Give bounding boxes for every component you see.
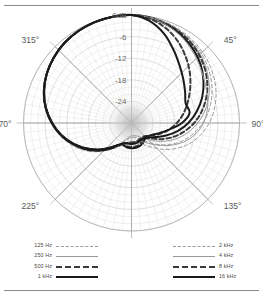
legend: 125 Hz250 Hz500 Hz1 kHz 2 kHz4 kHz8 kHz1… xyxy=(0,241,263,285)
legend-column-high-frequencies: 2 kHz4 kHz8 kHz16 kHz xyxy=(173,241,245,281)
top-divider-rule xyxy=(4,5,259,6)
polar-plot-area: 0dB-6-12-18-240°45°90°135°180°225°270°31… xyxy=(0,8,263,240)
angle-tick-label-45: 45° xyxy=(224,35,237,45)
legend-item: 1 kHz xyxy=(18,272,98,281)
legend-label: 4 kHz xyxy=(219,251,245,260)
bottom-divider-rule xyxy=(4,290,259,291)
radial-tick-label: -24 xyxy=(115,97,127,106)
radial-tick-label: -12 xyxy=(115,54,127,63)
legend-label: 16 kHz xyxy=(219,272,245,281)
legend-label: 8 kHz xyxy=(219,262,245,271)
legend-line-swatch xyxy=(173,254,215,258)
angle-tick-label-315: 315° xyxy=(22,35,40,45)
legend-label: 125 Hz xyxy=(18,241,52,250)
legend-item: 500 Hz xyxy=(18,262,98,271)
radial-tick-label: -18 xyxy=(115,76,127,85)
legend-item: 8 kHz xyxy=(173,262,245,271)
radial-tick-label: 0dB xyxy=(112,11,126,20)
legend-item: 2 kHz xyxy=(173,241,245,250)
angle-tick-label-225: 225° xyxy=(22,201,40,211)
legend-item: 250 Hz xyxy=(18,251,98,260)
legend-line-swatch xyxy=(56,244,98,248)
legend-label: 2 kHz xyxy=(219,241,245,250)
legend-line-swatch xyxy=(56,264,98,268)
legend-line-swatch xyxy=(173,274,215,278)
legend-item: 4 kHz xyxy=(173,251,245,260)
polar-pattern-figure: 0dB-6-12-18-240°45°90°135°180°225°270°31… xyxy=(0,0,263,299)
legend-item: 16 kHz xyxy=(173,272,245,281)
angle-tick-label-135: 135° xyxy=(224,201,242,211)
legend-column-low-frequencies: 125 Hz250 Hz500 Hz1 kHz xyxy=(18,241,98,281)
legend-line-swatch xyxy=(173,244,215,248)
angle-tick-label-270: 270° xyxy=(0,119,12,129)
angle-tick-label-90: 90° xyxy=(252,119,264,129)
legend-label: 250 Hz xyxy=(18,251,52,260)
legend-label: 500 Hz xyxy=(18,262,52,271)
legend-line-swatch xyxy=(56,274,98,278)
legend-line-swatch xyxy=(56,254,98,258)
radial-tick-label: -6 xyxy=(119,33,127,42)
legend-line-swatch xyxy=(173,264,215,268)
legend-label: 1 kHz xyxy=(18,272,52,281)
polar-plot-svg: 0dB-6-12-18-240°45°90°135°180°225°270°31… xyxy=(0,8,263,240)
legend-item: 125 Hz xyxy=(18,241,98,250)
